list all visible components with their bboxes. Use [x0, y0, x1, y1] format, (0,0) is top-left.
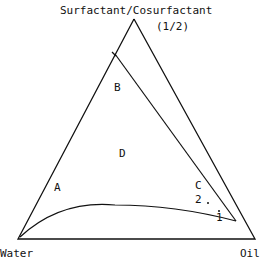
ternary-phase-diagram: Surfactant/Cosurfactant (1/2) Water Oil …	[0, 0, 260, 261]
region-c-label: C	[195, 180, 202, 191]
point-1-label: 1	[216, 212, 223, 223]
boundary-curve-a	[20, 204, 236, 237]
apex-label: Surfactant/Cosurfactant	[60, 5, 212, 16]
point-2-label: 2	[195, 194, 202, 205]
oil-vertex-label: Oil	[240, 248, 260, 259]
ratio-label: (1/2)	[156, 21, 189, 32]
region-d-label: D	[119, 148, 126, 159]
region-a-label: A	[54, 182, 61, 193]
water-vertex-label: Water	[0, 248, 33, 259]
boundary-line-b	[115, 54, 236, 221]
region-b-label: B	[114, 82, 121, 93]
point-dot-2	[207, 202, 209, 204]
